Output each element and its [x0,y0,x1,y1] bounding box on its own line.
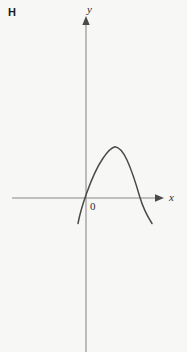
x-axis-label: x [169,192,174,203]
y-axis-label: y [87,4,92,15]
figure-panel: H y x 0 [0,0,187,352]
origin-label: 0 [90,201,96,212]
y-axis-arrow-icon [82,16,89,25]
coordinate-plot [0,0,187,352]
panel-letter-label: H [8,7,16,18]
x-axis-arrow-icon [155,194,164,202]
